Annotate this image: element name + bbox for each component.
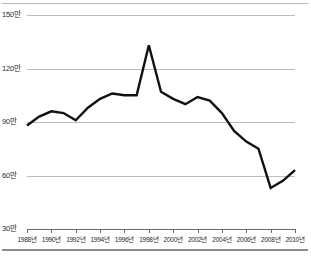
line-chart-figure: 150만120만90만60만30만 1988년1990년1992년1994년19… (0, 0, 311, 265)
bottom-divider (2, 249, 308, 251)
series-line (27, 45, 295, 188)
data-series-layer (0, 0, 311, 265)
plot-area: 150만120만90만60만30만 1988년1990년1992년1994년19… (0, 0, 311, 265)
